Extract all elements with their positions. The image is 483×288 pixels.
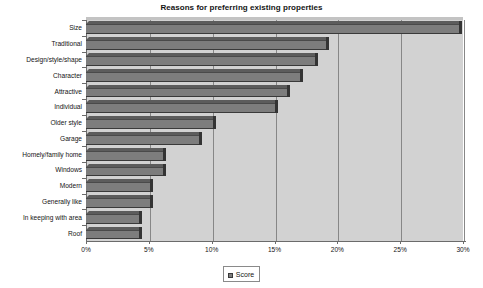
x-axis-tick-label: 20% [322, 246, 352, 253]
bar-end-cap [163, 164, 166, 177]
bar [86, 100, 278, 110]
gridline [464, 20, 465, 241]
x-axis-tick [275, 241, 276, 244]
y-axis-tick-label: Character [0, 72, 82, 79]
bar-front-face [86, 24, 459, 34]
bar [86, 85, 290, 95]
x-axis-line [86, 241, 466, 242]
x-axis-tick-label: 15% [260, 246, 290, 253]
x-axis-tick-label: 10% [197, 246, 227, 253]
y-axis-tick-label: Attractive [0, 88, 82, 95]
bar-front-face [86, 198, 150, 208]
bar-end-cap [150, 179, 153, 192]
x-axis-tick [400, 241, 401, 244]
bar-end-cap [199, 132, 202, 145]
bar-front-face [86, 214, 139, 224]
bar-end-cap [275, 100, 278, 113]
gridline [401, 20, 402, 241]
bar-front-face [86, 72, 300, 82]
bar-end-cap [213, 116, 216, 129]
bar-end-cap [139, 227, 142, 240]
bar-end-cap [139, 211, 142, 224]
bar [86, 21, 462, 31]
y-axis-tick-label: Roof [0, 230, 82, 237]
bar-front-face [86, 119, 213, 129]
x-axis-tick [337, 241, 338, 244]
bar [86, 227, 142, 237]
bar [86, 53, 318, 63]
gridline [338, 20, 339, 241]
bar-end-cap [287, 85, 290, 98]
y-axis-tick-label: Modern [0, 182, 82, 189]
legend-box: Score [223, 266, 260, 282]
bar-front-face [86, 182, 150, 192]
bar-front-face [86, 151, 163, 161]
bar-chart: Reasons for preferring existing properti… [0, 0, 483, 288]
y-axis-tick-label: Homely/family home [0, 151, 82, 158]
bar-front-face [86, 40, 326, 50]
x-axis-tick [463, 241, 464, 244]
bar [86, 37, 329, 47]
y-axis-tick-label: Windows [0, 166, 82, 173]
bar-end-cap [150, 195, 153, 208]
x-axis-tick-label: 0% [71, 246, 101, 253]
y-axis-label-group: RoofIn keeping with areaGenerally likeMo… [0, 20, 82, 241]
bar-front-face [86, 56, 315, 66]
y-axis-tick-label: Individual [0, 103, 82, 110]
y-axis-tick-label: Design/style/shape [0, 56, 82, 63]
bar [86, 148, 166, 158]
y-axis-tick-label: Size [0, 24, 82, 31]
bar-front-face [86, 230, 139, 240]
legend-swatch-score-icon [228, 273, 233, 278]
legend: Score [0, 263, 483, 282]
x-axis-tick [149, 241, 150, 244]
bar [86, 69, 303, 79]
bar [86, 116, 216, 126]
x-axis-tick [86, 241, 87, 244]
bar-front-face [86, 135, 199, 145]
y-axis-tick-label: Generally like [0, 198, 82, 205]
bar-front-face [86, 103, 275, 113]
bar [86, 179, 153, 189]
bar [86, 211, 142, 221]
bar-end-cap [315, 53, 318, 66]
legend-label-score: Score [236, 271, 254, 278]
bar-front-face [86, 167, 163, 177]
y-axis-tick-label: Older style [0, 119, 82, 126]
bar [86, 195, 153, 205]
bar-end-cap [300, 69, 303, 82]
bar [86, 164, 166, 174]
bar-end-cap [459, 21, 462, 34]
y-axis-tick-label: Garage [0, 135, 82, 142]
bar-end-cap [326, 37, 329, 50]
bar-front-face [86, 88, 287, 98]
y-axis-tick-label: In keeping with area [0, 214, 82, 221]
chart-title: Reasons for preferring existing properti… [0, 3, 483, 12]
x-axis-tick-label: 25% [385, 246, 415, 253]
y-axis-tick-label: Traditional [0, 40, 82, 47]
x-axis-tick-label: 5% [134, 246, 164, 253]
bar-end-cap [163, 148, 166, 161]
x-axis-tick-label: 30% [448, 246, 478, 253]
x-axis-tick [212, 241, 213, 244]
bar [86, 132, 202, 142]
